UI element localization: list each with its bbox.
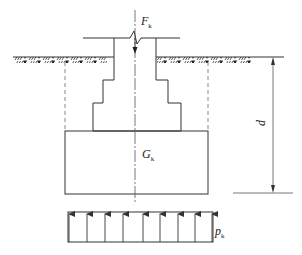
label-axial-load: Fk: [141, 15, 152, 30]
axial-load-arrow: [133, 38, 138, 54]
soil-and-footing-block: [65, 131, 208, 194]
axial-load-subscript: k: [148, 22, 152, 30]
label-base-pressure: pk: [215, 225, 225, 240]
foundation-diagram: [0, 0, 302, 255]
stepped-foundation-outline: [93, 38, 181, 131]
base-pressure-diagram: [68, 212, 213, 242]
column-top-break-line: [83, 31, 180, 44]
ground-surface-right: [156, 57, 284, 63]
ground-surface-left: [13, 57, 114, 63]
base-pressure-subscript: k: [221, 232, 225, 240]
label-self-weight: Gk: [142, 148, 154, 163]
label-depth: d: [255, 120, 267, 126]
depth-symbol: d: [254, 120, 268, 126]
self-weight-subscript: k: [151, 155, 155, 163]
self-weight-symbol: G: [142, 147, 151, 161]
